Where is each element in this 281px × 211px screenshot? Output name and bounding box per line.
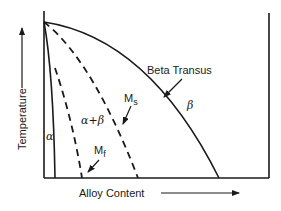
- beta-region-label: β: [186, 99, 193, 112]
- alpha-boundary-curve: [44, 22, 55, 178]
- beta-transus-pointer-icon: [164, 79, 182, 97]
- alpha-beta-region-label: α+β: [81, 114, 104, 127]
- y-axis-label: Temperature: [16, 88, 28, 150]
- ms-label: Ms: [124, 92, 138, 107]
- phase-diagram: Temperature Alloy Content α α+β β Beta T…: [0, 0, 281, 211]
- mf-pointer-icon: [88, 160, 99, 172]
- ms-label-sub: s: [133, 97, 138, 107]
- mf-label-main: M: [94, 144, 103, 156]
- mf-label: Mf: [94, 144, 106, 159]
- ms-label-main: M: [124, 92, 133, 104]
- mf-label-sub: f: [103, 149, 106, 159]
- beta-transus-label: Beta Transus: [147, 64, 212, 76]
- alpha-region-label: α: [46, 130, 54, 143]
- mf-curve: [55, 68, 82, 178]
- ms-pointer-icon: [123, 106, 131, 124]
- x-axis-label: Alloy Content: [79, 187, 144, 199]
